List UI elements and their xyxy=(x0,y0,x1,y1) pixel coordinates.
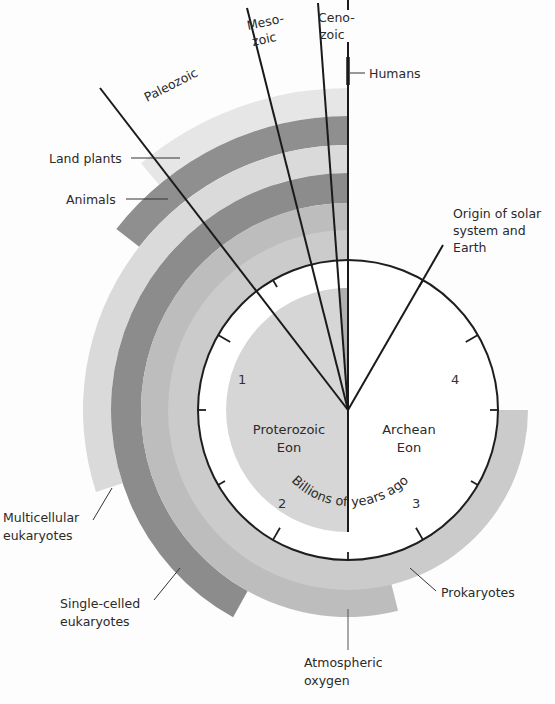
single-celled-label-1: Single-celled xyxy=(60,596,140,611)
single-celled-label-2: eukaryotes xyxy=(60,614,130,629)
scale-number-4: 4 xyxy=(451,372,459,387)
multicellular-label-1: Multicellular xyxy=(3,510,80,525)
prokaryotes-label: Prokaryotes xyxy=(441,585,515,600)
archean-eon-suffix: Eon xyxy=(397,440,421,455)
scale-number-2: 2 xyxy=(278,496,286,511)
origin-label-1: Origin of solar xyxy=(453,206,542,221)
scale-number-3: 3 xyxy=(412,496,420,511)
multicellular-label-2: eukaryotes xyxy=(3,528,73,543)
cenozoic-era-label-1: Ceno- xyxy=(318,10,355,25)
proterozoic-eon-label: Proterozoic xyxy=(253,422,325,437)
cenozoic-era-label-2: zoic xyxy=(320,27,345,42)
humans-label: Humans xyxy=(369,66,421,81)
proterozoic-eon-suffix: Eon xyxy=(277,440,301,455)
oxygen-label-2: oxygen xyxy=(304,673,350,688)
geologic-clock-diagram: 1 2 3 4 Proterozoic Eon Archean Eon Bill… xyxy=(0,0,555,704)
archean-eon-label: Archean xyxy=(382,422,436,437)
scale-number-1: 1 xyxy=(238,372,246,387)
land-plants-label: Land plants xyxy=(49,151,122,166)
oxygen-label-1: Atmospheric xyxy=(304,655,383,670)
origin-label-3: Earth xyxy=(453,240,487,255)
origin-label-2: system and xyxy=(453,223,526,238)
animals-label: Animals xyxy=(66,192,116,207)
